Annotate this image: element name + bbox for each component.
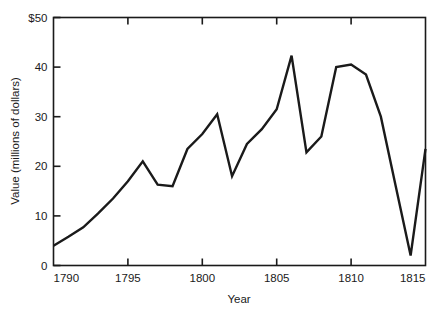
data-series-line <box>54 56 426 256</box>
y-axis-tick-labels: 010203040$50 <box>28 12 47 272</box>
x-tick-label-1805: 1805 <box>264 272 290 284</box>
plot-frame <box>54 18 426 266</box>
x-tick-label-1795: 1795 <box>115 272 141 284</box>
y-tick-label-20: 20 <box>35 160 48 172</box>
x-axis-ticks <box>128 259 351 266</box>
line-chart-figure: 010203040$50 179017951800180518101815 Ye… <box>0 0 445 315</box>
x-axis-tick-labels: 179017951800180518101815 <box>54 272 426 284</box>
x-axis-title: Year <box>227 293 250 305</box>
x-tick-label-1800: 1800 <box>190 272 216 284</box>
y-tick-label-50: $50 <box>28 12 47 24</box>
x-tick-label-1810: 1810 <box>338 272 364 284</box>
y-tick-label-0: 0 <box>41 260 47 272</box>
y-axis-ticks <box>54 18 61 266</box>
y-tick-label-30: 30 <box>35 111 48 123</box>
x-tick-label-1790: 1790 <box>54 272 80 284</box>
y-axis-title: Value (millions of dollars) <box>9 77 21 205</box>
top-axis-ticks <box>128 18 351 25</box>
x-tick-label-1815: 1815 <box>400 272 426 284</box>
chart-canvas: 010203040$50 179017951800180518101815 Ye… <box>0 0 445 315</box>
y-tick-label-10: 10 <box>35 210 48 222</box>
y-tick-label-40: 40 <box>35 61 48 73</box>
